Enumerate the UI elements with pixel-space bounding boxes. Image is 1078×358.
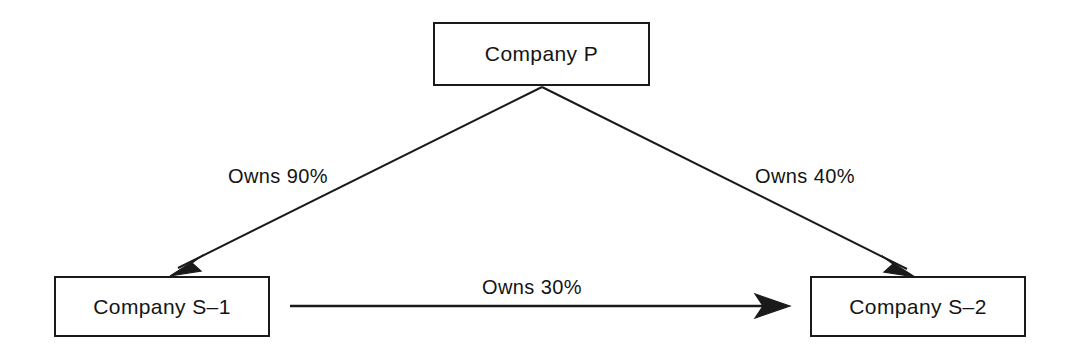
- edge-label-p-to-s1: Owns 90%: [228, 165, 328, 188]
- node-company-s1[interactable]: Company S–1: [54, 276, 270, 337]
- node-company-s2-label: Company S–2: [849, 295, 986, 319]
- edge-label-p-to-s2: Owns 40%: [755, 165, 855, 188]
- node-company-s2[interactable]: Company S–2: [810, 276, 1026, 337]
- edge-p-to-s1: [170, 87, 542, 276]
- edge-p-to-s2-arrowhead: [882, 256, 915, 277]
- edge-p-to-s1-arrowhead: [170, 255, 203, 276]
- node-company-s1-label: Company S–1: [93, 295, 230, 319]
- edge-p-to-s2: [542, 87, 915, 277]
- node-company-p-label: Company P: [485, 42, 598, 66]
- edge-label-s1-to-s2: Owns 30%: [482, 276, 582, 299]
- node-company-p[interactable]: Company P: [433, 22, 650, 86]
- ownership-diagram: Company P Company S–1 Company S–2 Owns 9…: [0, 0, 1078, 358]
